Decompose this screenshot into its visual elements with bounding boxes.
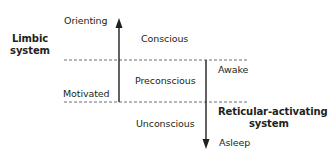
motivated-label: Motivated [63,88,110,99]
reticular-activating-label-line2: system [249,118,289,130]
limbic-system-label-line2: system [8,45,52,57]
reticular-activating-label-line1: Reticular-activating [218,106,328,118]
down-arrow-icon [203,60,210,149]
limbic-system-label-line1: Limbic [8,33,52,45]
asleep-label: Asleep [219,137,250,148]
orienting-label: Orienting [64,15,107,26]
awake-label: Awake [218,64,248,75]
level-conscious: Conscious [141,33,188,44]
consciousness-diagram: Orienting Limbic system Motivated Consci… [0,0,328,154]
level-preconscious: Preconscious [135,75,196,86]
level-unconscious: Unconscious [136,118,195,129]
